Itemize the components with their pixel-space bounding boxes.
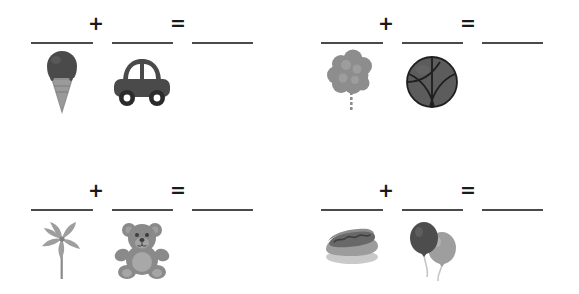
plus-symbol: + bbox=[378, 14, 394, 33]
answer-blank-first-operand[interactable] bbox=[31, 42, 93, 44]
answer-blank-sum[interactable] bbox=[192, 42, 253, 44]
teddy-bear-icon bbox=[106, 215, 178, 283]
car-icon bbox=[106, 48, 178, 116]
equals-symbol: = bbox=[460, 181, 476, 200]
problem-row: + = bbox=[310, 8, 570, 138]
answer-blank-first-operand[interactable] bbox=[321, 42, 383, 44]
equals-symbol: = bbox=[170, 181, 186, 200]
answer-blank-sum[interactable] bbox=[192, 209, 253, 211]
answer-blank-first-operand[interactable] bbox=[31, 209, 93, 211]
answer-blank-first-operand[interactable] bbox=[321, 209, 383, 211]
cotton-candy-icon bbox=[316, 48, 388, 116]
hot-dog-icon bbox=[316, 215, 388, 283]
answer-blank-sum[interactable] bbox=[482, 42, 543, 44]
answer-blank-second-operand[interactable] bbox=[402, 209, 463, 211]
answer-blank-second-operand[interactable] bbox=[112, 42, 173, 44]
plus-symbol: + bbox=[88, 181, 104, 200]
answer-blank-second-operand[interactable] bbox=[402, 42, 463, 44]
basketball-icon bbox=[396, 48, 468, 116]
problem-row: + = bbox=[20, 8, 280, 138]
pinwheel-lollipop-icon bbox=[26, 215, 98, 283]
answer-blank-sum[interactable] bbox=[482, 209, 543, 211]
plus-symbol: + bbox=[378, 181, 394, 200]
equals-symbol: = bbox=[170, 14, 186, 33]
problem-row: + = bbox=[20, 175, 280, 294]
balloons-icon bbox=[396, 215, 468, 283]
problem-row: + = bbox=[310, 175, 570, 294]
plus-symbol: + bbox=[88, 14, 104, 33]
answer-blank-second-operand[interactable] bbox=[112, 209, 173, 211]
picture-addition-worksheet: + = bbox=[0, 0, 579, 294]
ice-cream-cone-icon bbox=[26, 48, 98, 116]
equals-symbol: = bbox=[460, 14, 476, 33]
